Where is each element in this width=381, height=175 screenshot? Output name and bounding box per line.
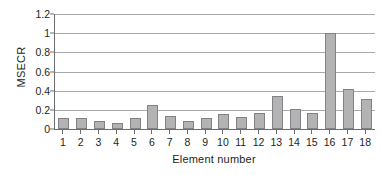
y-tick-label: 0.6 bbox=[16, 67, 50, 77]
bar bbox=[361, 99, 372, 129]
bar-slot bbox=[304, 14, 322, 129]
y-tick-label: 0 bbox=[16, 124, 50, 134]
x-tick-mark bbox=[294, 130, 295, 134]
x-tick-slot bbox=[250, 130, 268, 135]
x-tick-mark bbox=[62, 130, 63, 134]
bar bbox=[76, 118, 87, 129]
x-tick-slot bbox=[125, 130, 143, 135]
x-tick-label: 18 bbox=[356, 136, 374, 150]
x-tick-slot bbox=[267, 130, 285, 135]
bar bbox=[272, 96, 283, 129]
y-tick-label: 1 bbox=[16, 28, 50, 38]
y-tick-label: 0.8 bbox=[16, 47, 50, 57]
x-tick-label: 11 bbox=[232, 136, 250, 150]
x-tick-slot bbox=[285, 130, 303, 135]
bar bbox=[325, 33, 336, 129]
x-tick-mark bbox=[311, 130, 312, 134]
bar-slot bbox=[286, 14, 304, 129]
x-tick-label: 3 bbox=[90, 136, 108, 150]
x-tick-label: 14 bbox=[285, 136, 303, 150]
bar bbox=[183, 121, 194, 129]
x-tick-mark bbox=[134, 130, 135, 134]
bar bbox=[112, 123, 123, 129]
x-tick-slot bbox=[339, 130, 357, 135]
bar-slot bbox=[144, 14, 162, 129]
x-axis-tick-marks bbox=[54, 130, 374, 135]
chart-figure: MSECR 00.20.40.60.811.2 1234567891011121… bbox=[0, 0, 381, 175]
bar-slot bbox=[162, 14, 180, 129]
bar bbox=[254, 113, 265, 129]
bar-slot bbox=[357, 14, 375, 129]
bar-slot bbox=[197, 14, 215, 129]
plot-area bbox=[54, 14, 375, 130]
x-tick-slot bbox=[196, 130, 214, 135]
bar-series bbox=[55, 14, 375, 129]
x-tick-mark bbox=[240, 130, 241, 134]
x-tick-mark bbox=[347, 130, 348, 134]
bar bbox=[236, 117, 247, 129]
y-tick-label: 0.4 bbox=[16, 86, 50, 96]
x-tick-label: 4 bbox=[107, 136, 125, 150]
x-tick-label: 7 bbox=[161, 136, 179, 150]
x-tick-mark bbox=[116, 130, 117, 134]
x-tick-slot bbox=[321, 130, 339, 135]
x-tick-mark bbox=[98, 130, 99, 134]
bar-slot bbox=[126, 14, 144, 129]
x-tick-slot bbox=[143, 130, 161, 135]
x-tick-mark bbox=[80, 130, 81, 134]
bar bbox=[218, 114, 229, 129]
x-tick-slot bbox=[54, 130, 72, 135]
x-tick-mark bbox=[365, 130, 366, 134]
bar bbox=[58, 118, 69, 129]
x-tick-mark bbox=[222, 130, 223, 134]
x-tick-slot bbox=[232, 130, 250, 135]
x-tick-label: 9 bbox=[196, 136, 214, 150]
x-tick-mark bbox=[258, 130, 259, 134]
x-tick-slot bbox=[161, 130, 179, 135]
x-tick-label: 2 bbox=[72, 136, 90, 150]
bar bbox=[130, 118, 141, 129]
bar bbox=[165, 116, 176, 129]
bar-slot bbox=[322, 14, 340, 129]
x-tick-mark bbox=[276, 130, 277, 134]
x-tick-label: 6 bbox=[143, 136, 161, 150]
bar-slot bbox=[251, 14, 269, 129]
bar-slot bbox=[268, 14, 286, 129]
bar-slot bbox=[340, 14, 358, 129]
bar bbox=[307, 113, 318, 129]
x-tick-slot bbox=[107, 130, 125, 135]
x-axis-title: Element number bbox=[54, 153, 374, 166]
x-tick-label: 12 bbox=[250, 136, 268, 150]
bar bbox=[147, 105, 158, 129]
x-tick-label: 1 bbox=[54, 136, 72, 150]
x-tick-label: 17 bbox=[339, 136, 357, 150]
x-tick-slot bbox=[90, 130, 108, 135]
y-axis-tick-labels: 00.20.40.60.811.2 bbox=[16, 8, 50, 129]
y-tick-label: 1.2 bbox=[16, 9, 50, 19]
bar bbox=[94, 121, 105, 129]
bar-slot bbox=[215, 14, 233, 129]
bar bbox=[201, 118, 212, 129]
bar-slot bbox=[179, 14, 197, 129]
bar bbox=[343, 89, 354, 129]
bar-slot bbox=[108, 14, 126, 129]
bar-slot bbox=[91, 14, 109, 129]
x-tick-label: 15 bbox=[303, 136, 321, 150]
bar-slot bbox=[233, 14, 251, 129]
bar-slot bbox=[55, 14, 73, 129]
x-tick-slot bbox=[178, 130, 196, 135]
x-axis-tick-labels: 123456789101112131415161718 bbox=[54, 136, 374, 150]
x-tick-mark bbox=[169, 130, 170, 134]
x-tick-slot bbox=[72, 130, 90, 135]
x-tick-label: 16 bbox=[321, 136, 339, 150]
x-tick-slot bbox=[214, 130, 232, 135]
x-tick-slot bbox=[303, 130, 321, 135]
bar-slot bbox=[73, 14, 91, 129]
x-tick-label: 13 bbox=[267, 136, 285, 150]
bar bbox=[290, 109, 301, 129]
x-tick-mark bbox=[151, 130, 152, 134]
x-tick-slot bbox=[356, 130, 374, 135]
x-tick-label: 8 bbox=[178, 136, 196, 150]
y-tick-label: 0.2 bbox=[16, 105, 50, 115]
x-tick-mark bbox=[187, 130, 188, 134]
